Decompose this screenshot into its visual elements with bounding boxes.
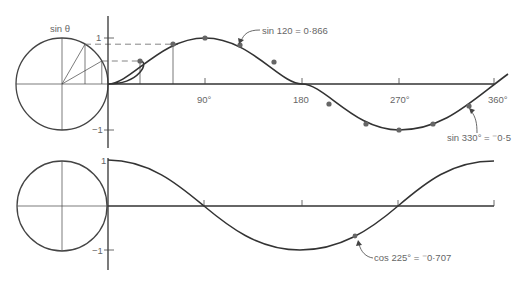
cos225-arrow bbox=[359, 244, 373, 258]
lower-y-tick-1: 1 bbox=[101, 155, 106, 166]
sin120-arrow bbox=[241, 30, 260, 41]
x-tick-90: 90° bbox=[197, 94, 212, 105]
lower-ticks bbox=[104, 200, 494, 250]
cosine-curve bbox=[108, 160, 494, 250]
sin330-arrowhead bbox=[469, 108, 475, 114]
upper-unit-circle bbox=[16, 38, 108, 130]
cos225-arrowhead bbox=[356, 240, 362, 246]
x-tick-180: 180 bbox=[293, 94, 309, 105]
lower-unit-circle bbox=[17, 161, 108, 251]
upper-y-tick-neg1: −1 bbox=[92, 124, 103, 135]
x-tick-270: 270° bbox=[390, 94, 410, 105]
sin-theta-label: sin θ bbox=[50, 23, 70, 34]
projection-lines bbox=[85, 44, 178, 61]
x-tick-360: 360° bbox=[488, 94, 508, 105]
cos225-annotation: cos 225° = ⁻0·707 bbox=[374, 252, 451, 263]
cos225-point bbox=[353, 234, 358, 239]
sin120-annotation: sin 120 = 0·866 bbox=[262, 25, 328, 36]
sin330-annotation: sin 330° = ⁻0·5 bbox=[447, 132, 511, 143]
sin330-arrow bbox=[471, 111, 477, 133]
upper-y-tick-1: 1 bbox=[96, 32, 101, 43]
lower-y-tick-neg1: −1 bbox=[92, 245, 103, 256]
trig-diagram: sin θ 1 −1 90° 180 270° 360° bbox=[0, 0, 529, 291]
